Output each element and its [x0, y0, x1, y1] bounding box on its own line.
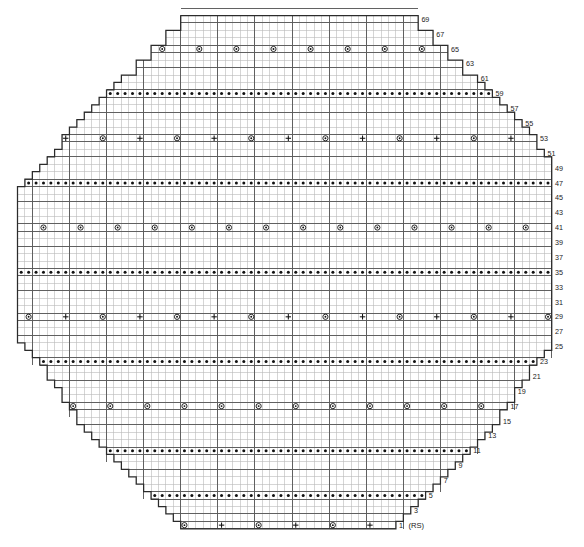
row-number-47: 47	[555, 179, 563, 188]
row-number-37: 37	[555, 253, 563, 262]
row-number-29: 29	[555, 312, 563, 321]
row-number-57: 57	[510, 104, 518, 113]
row-number-35: 35	[555, 268, 563, 277]
knitting-chart-container: 6967656361595755535149474543413937353331…	[0, 0, 584, 547]
row-number-55: 55	[525, 119, 533, 128]
row-number-11: 11	[473, 446, 480, 455]
knitting-chart-svg: 6967656361595755535149474543413937353331…	[0, 0, 584, 547]
row-number-5: 5	[429, 491, 433, 500]
row-number-49: 49	[555, 164, 563, 173]
row-number-39: 39	[555, 238, 563, 247]
row-number-21: 21	[533, 372, 541, 381]
row-number-3: 3	[414, 506, 418, 515]
row-number-17: 17	[510, 402, 518, 411]
row-number-63: 63	[466, 59, 474, 68]
row-number-41: 41	[555, 223, 563, 232]
row-number-69: 69	[421, 15, 429, 24]
row-number-51: 51	[548, 149, 556, 158]
row-number-7: 7	[444, 476, 448, 485]
row-number-13: 13	[488, 431, 496, 440]
row-number-31: 31	[555, 298, 563, 307]
row-number-45: 45	[555, 193, 563, 202]
row-number-15: 15	[503, 417, 511, 426]
row-number-65: 65	[451, 45, 459, 54]
row-number-67: 67	[436, 30, 444, 39]
row-number-25: 25	[555, 342, 563, 351]
rs-side-marker: (RS)	[408, 521, 424, 530]
row-number-33: 33	[555, 283, 563, 292]
row-number-59: 59	[496, 89, 504, 98]
row-number-61: 61	[481, 74, 489, 83]
row-number-23: 23	[540, 357, 548, 366]
row-number-27: 27	[555, 327, 563, 336]
row-number-19: 19	[518, 387, 526, 396]
row-number-9: 9	[458, 461, 462, 470]
row-number-53: 53	[540, 134, 548, 143]
row-number-43: 43	[555, 208, 563, 217]
row-number-1: 1	[399, 521, 403, 530]
